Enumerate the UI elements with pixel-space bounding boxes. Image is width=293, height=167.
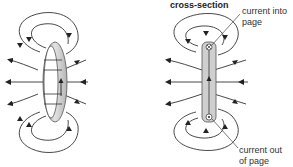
field-line-bottom-outer xyxy=(19,112,78,152)
cross-section-panel: cross-section xyxy=(168,0,287,166)
loop-3d-panel xyxy=(8,13,88,153)
label-current-into-line1: current into xyxy=(242,6,287,16)
current-out-of-page-symbol xyxy=(206,114,212,120)
field-line-bottom-inner xyxy=(31,116,68,140)
cs-arrow-bottom-right xyxy=(222,124,228,129)
arrow-top-inner-right xyxy=(66,33,72,38)
arrow-bottom-inner-right xyxy=(66,126,72,131)
cs-arrow-top-right xyxy=(222,35,228,40)
field-line-top-inner xyxy=(31,24,68,48)
field-line-upper-left xyxy=(10,60,38,70)
current-into-page-symbol xyxy=(206,44,212,50)
label-current-into-line2: page xyxy=(242,17,262,27)
arrow-axis-right xyxy=(80,79,86,85)
pointer-into-page xyxy=(212,14,240,45)
field-line-lower-left xyxy=(10,94,38,104)
cs-field-line-lower-right xyxy=(214,94,246,104)
cs-arrow-bottom-left xyxy=(185,120,191,125)
ring-inner xyxy=(44,46,58,118)
cs-field-line-lower-left xyxy=(168,94,202,104)
pointer-out-of-page xyxy=(212,119,238,148)
arrow-top-inner xyxy=(26,37,32,42)
arrow-bottom-inner xyxy=(26,122,32,127)
arrow-bottom-outer xyxy=(17,116,23,121)
cs-arrow-top-left xyxy=(185,39,191,44)
cs-arrow-axis-right xyxy=(238,79,244,85)
magnetic-field-diagram: cross-section xyxy=(0,0,293,167)
label-current-out-line2: of page xyxy=(239,156,269,166)
cs-field-line-upper-left xyxy=(168,60,202,70)
label-current-out-line1: current out xyxy=(239,145,283,155)
cs-field-line-upper-right xyxy=(214,60,246,70)
arrow-top-outer xyxy=(17,43,23,48)
cs-arrow-bottom-inner xyxy=(203,128,209,133)
cross-section-title: cross-section xyxy=(170,0,229,10)
cs-arrow-top-inner xyxy=(203,31,209,36)
